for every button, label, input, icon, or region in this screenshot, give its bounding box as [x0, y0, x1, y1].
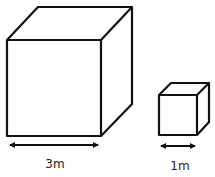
small-cube-label: 1m: [170, 159, 189, 173]
cube-diagram: [0, 0, 215, 177]
large-cube-label: 3m: [45, 157, 64, 171]
small-cube: [159, 83, 209, 135]
large-cube: [7, 7, 132, 136]
